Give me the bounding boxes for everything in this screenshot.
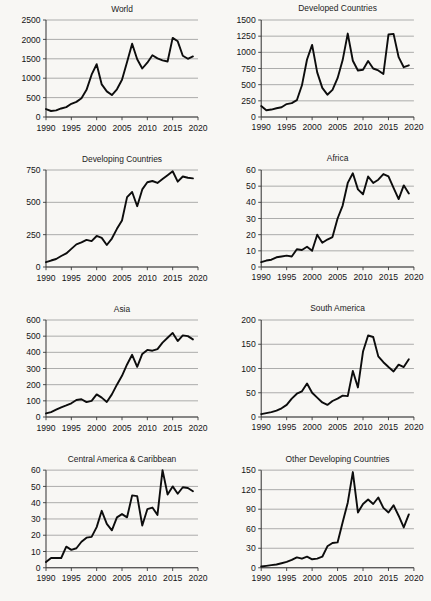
- panel-title: World: [111, 4, 133, 14]
- x-tick-label: 1990: [252, 423, 271, 433]
- x-tick-label: 2010: [138, 573, 157, 583]
- data-series-line: [46, 470, 193, 562]
- data-series-line: [46, 171, 193, 262]
- y-tick-label: 100: [26, 396, 41, 406]
- y-tick-label: 0: [251, 262, 256, 272]
- y-tick-label: 10: [31, 547, 41, 557]
- x-tick-label: 2020: [404, 273, 423, 283]
- y-tick-label: 2500: [21, 15, 40, 25]
- data-series-line: [46, 38, 193, 111]
- y-tick-label: 0: [251, 412, 256, 422]
- y-tick-label: 500: [26, 93, 41, 103]
- y-tick-label: 1000: [21, 73, 40, 83]
- data-series-line: [261, 472, 409, 566]
- x-tick-label: 2005: [112, 573, 131, 583]
- panel-title: Other Developing Countries: [286, 454, 390, 464]
- x-tick-label: 2000: [87, 423, 106, 433]
- x-tick-label: 1995: [62, 573, 81, 583]
- y-tick-label: 0: [36, 112, 41, 122]
- x-tick-label: 2010: [353, 573, 372, 583]
- x-tick-label: 2005: [328, 273, 347, 283]
- y-tick-label: 0: [251, 563, 256, 573]
- x-tick-label: 1995: [277, 273, 296, 283]
- x-tick-label: 1995: [277, 573, 296, 583]
- x-tick-label: 2015: [163, 123, 182, 133]
- y-tick-label: 0: [251, 112, 256, 122]
- x-tick-label: 2010: [138, 273, 157, 283]
- y-tick-label: 250: [26, 230, 41, 240]
- x-tick-label: 1990: [36, 273, 55, 283]
- x-tick-label: 2020: [404, 423, 423, 433]
- y-tick-label: 400: [26, 347, 41, 357]
- chart-panel: Africa0102030405060199019952000200520102…: [215, 150, 431, 300]
- x-tick-label: 2015: [163, 423, 182, 433]
- x-tick-label: 2000: [303, 423, 322, 433]
- x-tick-label: 2010: [138, 123, 157, 133]
- y-tick-label: 1000: [236, 47, 255, 57]
- x-tick-label: 2000: [303, 573, 322, 583]
- chart-panel: World05001000150020002500199019952000200…: [0, 0, 215, 150]
- y-tick-label: 10: [246, 246, 256, 256]
- x-tick-label: 1990: [252, 123, 271, 133]
- x-tick-label: 2000: [87, 273, 106, 283]
- x-tick-label: 2015: [379, 423, 398, 433]
- y-tick-label: 300: [26, 364, 41, 374]
- x-tick-label: 2000: [303, 123, 322, 133]
- multi-panel-chart-figure: World05001000150020002500199019952000200…: [0, 0, 431, 601]
- x-tick-label: 2020: [188, 273, 207, 283]
- x-tick-label: 2000: [303, 273, 322, 283]
- y-tick-label: 200: [241, 315, 256, 325]
- x-tick-label: 1995: [277, 123, 296, 133]
- x-tick-label: 2005: [112, 273, 131, 283]
- y-tick-label: 750: [241, 64, 256, 74]
- x-tick-label: 2000: [87, 573, 106, 583]
- chart-panel: Central America & Caribbean0102030405060…: [0, 450, 215, 601]
- x-tick-label: 2005: [112, 123, 131, 133]
- y-tick-label: 1250: [236, 31, 255, 41]
- x-tick-label: 2010: [138, 423, 157, 433]
- y-tick-label: 20: [246, 230, 256, 240]
- y-tick-label: 20: [31, 530, 41, 540]
- x-tick-label: 1990: [36, 423, 55, 433]
- y-tick-label: 500: [26, 197, 41, 207]
- data-series-line: [261, 173, 409, 262]
- y-tick-label: 40: [246, 197, 256, 207]
- x-tick-label: 2015: [163, 573, 182, 583]
- x-tick-label: 2020: [404, 123, 423, 133]
- y-tick-label: 1500: [21, 54, 40, 64]
- y-tick-label: 60: [246, 165, 256, 175]
- y-tick-label: 30: [246, 543, 256, 553]
- panel-title: Central America & Caribbean: [68, 454, 177, 464]
- x-tick-label: 2005: [328, 573, 347, 583]
- x-tick-label: 2020: [188, 123, 207, 133]
- x-tick-label: 1995: [62, 273, 81, 283]
- x-tick-label: 2015: [379, 273, 398, 283]
- y-tick-label: 60: [31, 465, 41, 475]
- x-tick-label: 2000: [87, 123, 106, 133]
- x-tick-label: 2015: [379, 123, 398, 133]
- y-tick-label: 1500: [236, 15, 255, 25]
- panel-title: Developing Countries: [82, 154, 162, 164]
- x-tick-label: 1990: [252, 273, 271, 283]
- y-tick-label: 0: [36, 412, 41, 422]
- x-tick-label: 2020: [188, 423, 207, 433]
- y-tick-label: 500: [26, 331, 41, 341]
- x-tick-label: 1995: [62, 123, 81, 133]
- panel-title: Africa: [327, 154, 349, 164]
- chart-panel: Asia010020030040050060019901995200020052…: [0, 300, 215, 450]
- data-series-line: [46, 333, 193, 414]
- x-tick-label: 1990: [36, 123, 55, 133]
- panel-title: Developed Countries: [298, 4, 377, 14]
- y-tick-label: 90: [246, 504, 256, 514]
- chart-panel: Other Developing Countries03060901201501…: [215, 450, 431, 601]
- y-tick-label: 200: [26, 380, 41, 390]
- data-series-line: [261, 336, 409, 415]
- x-tick-label: 2005: [328, 123, 347, 133]
- y-tick-label: 40: [31, 498, 41, 508]
- y-tick-label: 30: [31, 514, 41, 524]
- y-tick-label: 250: [241, 96, 256, 106]
- data-series-line: [261, 34, 409, 111]
- y-tick-label: 60: [246, 524, 256, 534]
- chart-panel: South America050100150200199019952000200…: [215, 300, 431, 450]
- x-tick-label: 2015: [163, 273, 182, 283]
